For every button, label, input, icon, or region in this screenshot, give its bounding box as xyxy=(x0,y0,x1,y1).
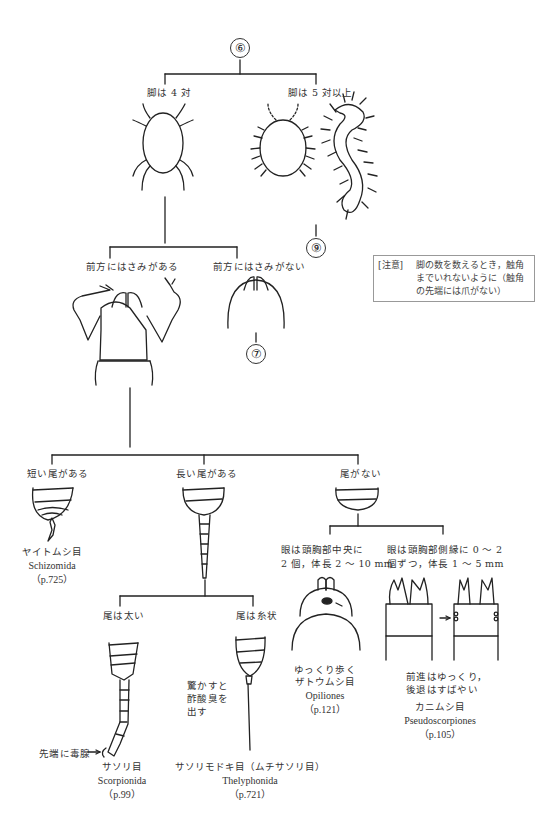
opiliones-drawing xyxy=(292,578,360,651)
label-eyes-side: 眼は頭胸部側縁に 0 〜 2 個ずつ，体長 1 〜 5 mm xyxy=(387,543,504,571)
label-threadlike-tail: 尾は糸状 xyxy=(236,608,277,622)
pseudo-line2: 後退はすばやい xyxy=(406,683,487,696)
taxon-opiliones[interactable]: ザトウムシ目 Opiliones （p.121） xyxy=(295,675,355,717)
vinegar-line2: 酢酸臭を xyxy=(187,692,228,705)
label-with-pincers: 前方にはさみがある xyxy=(86,259,179,273)
annotation-slow-walk: ゆっくり歩く xyxy=(294,662,356,676)
taxon-sci: Opiliones xyxy=(295,689,355,703)
connector-tails xyxy=(52,455,358,464)
label-five-plus-pairs-legs: 脚は 5 対以上 xyxy=(288,85,352,99)
taxon-sci: Schizomida xyxy=(22,559,82,573)
eyes-side-line1: 眼は頭胸部側縁に 0 〜 2 xyxy=(387,543,504,557)
node-6[interactable]: ⑥ xyxy=(230,38,250,58)
taxon-schizomida[interactable]: ヤイトムシ目 Schizomida （p.725） xyxy=(22,545,82,587)
taxon-jp: ヤイトムシ目 xyxy=(22,545,82,559)
key-diagram-art xyxy=(0,0,554,821)
taxon-page: （p.721） xyxy=(175,788,325,802)
node-9-link[interactable]: ⑨ xyxy=(306,238,326,258)
label-four-pairs-legs: 脚は 4 対 xyxy=(147,85,191,99)
annotation-venom-gland: 先端に毒腺 xyxy=(39,746,91,760)
eyes-center-line1: 眼は頭胸部中央に xyxy=(281,543,393,557)
taxon-thelyphonida[interactable]: サソリモドキ目（ムチサソリ目） Thelyphonida （p.721） xyxy=(175,760,325,802)
short-tail-abdomen-drawing xyxy=(33,488,73,541)
node-7-link[interactable]: ⑦ xyxy=(246,344,266,364)
taxon-jp: サソリモドキ目（ムチサソリ目） xyxy=(175,760,325,774)
taxon-jp: カニムシ目 xyxy=(404,700,476,714)
pseudo-line1: 前進はゆっくり， xyxy=(406,670,487,683)
vinegar-line3: 出す xyxy=(187,705,228,718)
annotation-vinegar-odor: 驚かすと 酢酸臭を 出す xyxy=(187,679,228,718)
mite-four-legs-drawing xyxy=(133,104,193,243)
taxon-page: （p.105） xyxy=(404,728,476,742)
taxon-page: （p.725） xyxy=(22,573,82,587)
connector-top xyxy=(165,60,316,84)
taxon-pseudoscorpiones[interactable]: カニムシ目 Pseudoscorpiones （p.105） xyxy=(404,700,476,742)
taxon-page: （p.121） xyxy=(295,703,355,717)
long-tail-abdomen-drawing xyxy=(120,488,253,606)
connector-pincers xyxy=(110,247,237,258)
pincer-cephalothorax-drawing xyxy=(73,278,180,447)
taxon-sci: Thelyphonida xyxy=(175,774,325,788)
no-pincer-cephalothorax-drawing xyxy=(228,277,284,342)
taxon-sci: Pseudoscorpiones xyxy=(404,714,476,728)
caution-note: [注意] 脚の数を数えるとき，触角までいれないように（触角の先端には爪がない） xyxy=(373,255,535,302)
vinegar-line1: 驚かすと xyxy=(187,679,228,692)
taxon-page: （p.99） xyxy=(98,788,146,802)
scorpion-tail-drawing xyxy=(88,643,138,757)
eyes-side-line2: 個ずつ，体長 1 〜 5 mm xyxy=(387,557,504,571)
label-eyes-center: 眼は頭胸部中央に 2 個，体長 2 〜 10 mm xyxy=(281,543,393,571)
centipede-drawing xyxy=(321,92,377,219)
taxon-sci: Scorpionida xyxy=(98,774,146,788)
whip-scorpion-tail-drawing xyxy=(236,637,265,750)
caution-tag: [注意] xyxy=(378,259,403,272)
eyes-center-line2: 2 個，体長 2 〜 10 mm xyxy=(281,557,393,571)
taxon-scorpionida[interactable]: サソリ目 Scorpionida （p.99） xyxy=(98,760,146,802)
label-without-pincers: 前方にはさみがない xyxy=(213,259,306,273)
caution-text: 脚の数を数えるとき，触角までいれないように（触角の先端には爪がない） xyxy=(416,259,530,298)
mite-many-legs-drawing xyxy=(251,104,315,176)
label-short-tail: 短い尾がある xyxy=(27,466,89,480)
label-long-tail: 長い尾がある xyxy=(176,466,238,480)
label-thick-tail: 尾は太い xyxy=(103,608,144,622)
pseudoscorpion-drawing xyxy=(386,578,498,660)
taxon-jp: サソリ目 xyxy=(98,760,146,774)
taxon-jp: ザトウムシ目 xyxy=(295,675,355,689)
annotation-pseudo-movement: 前進はゆっくり， 後退はすばやい xyxy=(406,670,487,696)
no-tail-abdomen-drawing xyxy=(330,488,443,534)
label-no-tail: 尾がない xyxy=(340,466,381,480)
